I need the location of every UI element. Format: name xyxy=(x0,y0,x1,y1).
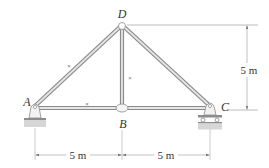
span-dimensions: 5 m 5 m xyxy=(35,128,210,161)
member-marker: × xyxy=(128,75,132,81)
height-dimension-label: 5 m xyxy=(241,64,258,76)
joint-label-c: C xyxy=(221,100,230,114)
joint-label-b: B xyxy=(119,117,127,131)
joint-d xyxy=(119,23,126,30)
member-marker: × xyxy=(67,63,71,69)
joint-label-a: A xyxy=(22,95,31,109)
truss-diagram: 5 m 5 m 5 m xyxy=(0,0,269,168)
truss-members xyxy=(35,25,210,108)
span-left-label: 5 m xyxy=(70,149,87,161)
span-right-label: 5 m xyxy=(158,149,175,161)
joint-b xyxy=(116,104,128,112)
height-dimension: 5 m xyxy=(127,25,258,110)
joint-label-d: D xyxy=(117,7,127,21)
member-marker: × xyxy=(85,101,89,107)
